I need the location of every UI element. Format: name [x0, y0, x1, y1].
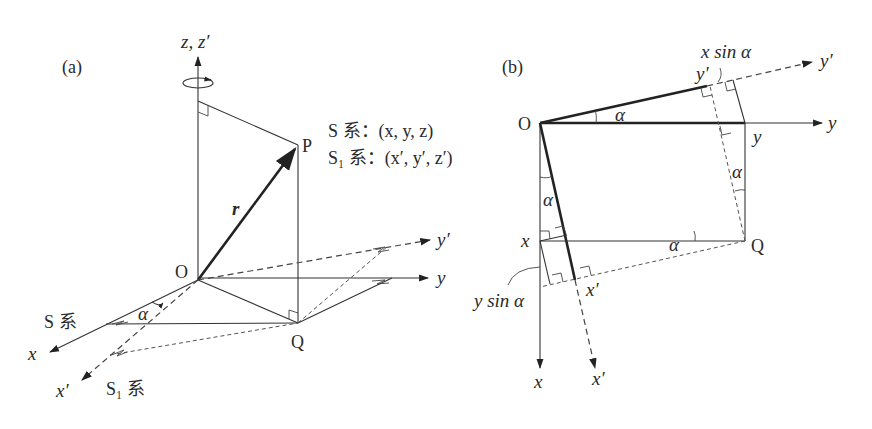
z-to-p-line	[198, 101, 298, 145]
brace	[718, 68, 721, 82]
right-angle-mark	[720, 126, 731, 135]
point-q-label-b: Q	[751, 236, 764, 256]
rotation-diagram: (a) z, z′ O P Q r α y y′ x x′ S 系 S₁ 系 S…	[0, 0, 872, 429]
frame-s-label: S 系	[44, 312, 77, 332]
panel-a-label: (a)	[62, 57, 82, 78]
point-p-label: P	[302, 136, 312, 156]
vector-r-label: r	[232, 198, 240, 219]
x-sin-alpha-label: x sin α	[700, 41, 752, 62]
leader-line	[508, 267, 540, 285]
y-prime-axis	[198, 240, 430, 280]
y-axis-label: y	[435, 267, 446, 288]
right-angle-mark	[580, 266, 591, 275]
q-to-y-prime-line	[298, 246, 388, 323]
y-prime-axis-label: y′	[435, 229, 450, 250]
x-proj-line	[540, 241, 550, 284]
q-to-x-prime-line	[110, 323, 298, 355]
alpha-arc	[595, 111, 596, 123]
alpha-label-1: α	[615, 104, 626, 125]
alpha-arc	[694, 231, 695, 241]
y-axis-label-b: y	[826, 112, 837, 133]
tick-x-prime-label: x′	[585, 279, 599, 300]
o-to-q-line	[198, 280, 298, 323]
right-angle-mark	[198, 105, 208, 116]
frame-s1-label: S₁ 系	[106, 379, 145, 399]
alpha-label-3: α	[732, 161, 743, 182]
tick-y-prime-label: y′	[694, 63, 709, 84]
panel-a: (a) z, z′ O P Q r α y y′ x x′ S 系 S₁ 系 S…	[27, 31, 453, 401]
right-angle-mark	[114, 350, 127, 356]
x-perp-to-x-prime	[540, 235, 567, 241]
right-angle-mark	[540, 231, 550, 239]
tick-x-label: x	[520, 230, 530, 251]
y-prime-axis-label-b: y′	[818, 50, 833, 71]
x-axis-label: x	[27, 343, 37, 364]
origin-label: O	[175, 262, 188, 282]
right-angle-mark	[552, 273, 563, 282]
x-prime-axis-label: x′	[55, 380, 69, 401]
alpha-label: α	[138, 303, 149, 324]
alpha-label-4: α	[669, 234, 680, 255]
origin-label-b: O	[518, 114, 531, 134]
panel-b-label: (b)	[502, 57, 523, 78]
panel-b: (b) O y y′ x x′ Q y x y′ x′ x sin α y si…	[472, 41, 837, 392]
z-axis-label: z, z′	[180, 31, 210, 52]
q-to-x-line	[106, 323, 298, 324]
y-prime-axis-b	[707, 62, 812, 86]
x-axis-label-b: x	[533, 371, 543, 392]
tick-y-label: y	[751, 126, 762, 147]
alpha-arc	[735, 190, 745, 191]
alpha-arc	[152, 302, 163, 305]
y-sin-alpha-label: y sin α	[472, 290, 525, 311]
right-angle-mark	[289, 310, 298, 319]
coords-s-label: S 系：(x, y, z)	[328, 121, 433, 142]
alpha-arc	[540, 176, 552, 178]
r-vector	[198, 149, 295, 280]
alpha-label-2: α	[543, 189, 554, 210]
x-prime-axis	[82, 280, 198, 380]
coords-s1-label: S₁ 系：(x′, y′, z′)	[328, 148, 453, 169]
point-q-label: Q	[291, 332, 304, 352]
y-perp-to-y-prime	[733, 80, 745, 123]
x-prime-axis-label-b: x′	[591, 368, 605, 389]
q-to-y-line	[298, 278, 392, 323]
